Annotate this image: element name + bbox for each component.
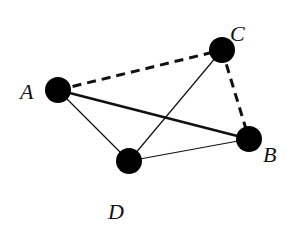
edge-d-c: [129, 50, 222, 161]
graph-diagram: ACBD: [0, 0, 296, 225]
node-label-c: C: [230, 21, 245, 46]
edge-a-d: [58, 90, 129, 161]
node-label-b: B: [263, 142, 276, 167]
edge-a-c: [58, 50, 222, 90]
edge-c-b: [222, 50, 249, 139]
node-b: [236, 126, 262, 152]
node-label-a: A: [18, 79, 34, 104]
node-a: [45, 77, 71, 103]
node-d: [116, 148, 142, 174]
node-label-d: D: [107, 199, 124, 224]
edge-d-b: [129, 139, 249, 161]
